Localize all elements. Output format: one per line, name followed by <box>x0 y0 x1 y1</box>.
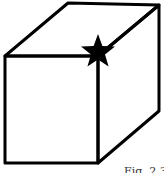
figure-caption: Fig. 2.3 <box>124 166 164 173</box>
cube-top-face <box>5 3 159 56</box>
cube-right-face <box>98 5 159 163</box>
cube-diagram <box>0 0 164 173</box>
cube-front-face <box>5 56 98 163</box>
